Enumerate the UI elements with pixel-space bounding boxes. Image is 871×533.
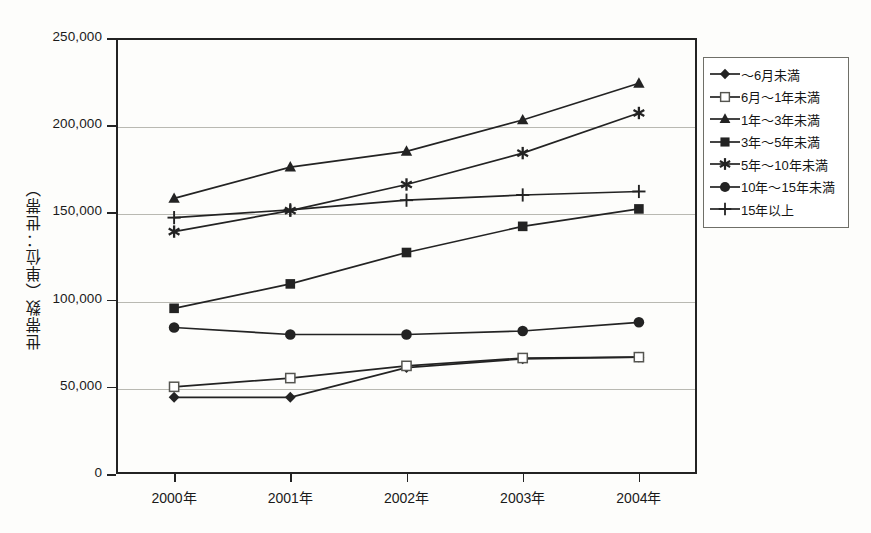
series-line [169, 352, 645, 403]
marker-star-six [634, 107, 645, 119]
legend-label: 6月～1年未満 [741, 87, 820, 106]
y-axis-tick-label: 250,000 [53, 29, 103, 44]
chart-canvas: 世帯数（単位：世帯） 050,000100,000150,000200,0002… [0, 0, 871, 533]
marker-plus [400, 194, 413, 207]
legend-marker [709, 64, 741, 84]
marker-circle-filled [634, 317, 645, 328]
legend-marker [709, 199, 741, 219]
legend-label: 3年～5年未満 [741, 132, 820, 151]
y-axis-tick [107, 125, 116, 127]
marker-plus [719, 203, 732, 216]
marker-square-open [402, 361, 411, 370]
marker-triangle-filled [633, 77, 644, 87]
series-polyline [174, 113, 639, 232]
legend-marker [709, 87, 741, 107]
legend-label: 15年以上 [741, 200, 794, 219]
chart-legend: ～6月未満6月～1年未満1年～3年未満3年～5年未満5年～10年未満10年～15… [703, 57, 849, 228]
marker-square-open [286, 373, 295, 382]
legend-item[interactable]: 3年～5年未満 [709, 131, 842, 154]
x-axis-tick-label: 2004年 [589, 487, 689, 507]
y-axis-tick [107, 474, 116, 476]
y-axis-title-text: 世帯数（単位：世帯） [27, 180, 43, 350]
marker-square-filled [720, 137, 729, 146]
y-axis-tick [107, 300, 116, 302]
series-layer [116, 38, 697, 474]
legend-item[interactable]: 6月～1年未満 [709, 86, 842, 109]
legend-marker [709, 132, 741, 152]
x-axis-tick-label: 2001年 [240, 487, 340, 507]
marker-star-six [517, 147, 528, 159]
legend-item[interactable]: 5年～10年未満 [709, 153, 842, 176]
marker-circle-filled [401, 329, 412, 340]
marker-square-open [170, 382, 179, 391]
legend-label: 10年～15年未満 [741, 177, 835, 196]
legend-marker [709, 154, 741, 174]
y-axis-tick-label: 200,000 [53, 116, 103, 131]
series-line [169, 317, 644, 340]
x-axis-tick [290, 474, 292, 482]
legend-item[interactable]: 10年～15年未満 [709, 176, 842, 199]
y-axis-tick-label: 100,000 [53, 291, 103, 306]
x-axis-tick-label: 2002年 [357, 487, 457, 507]
marker-circle-filled [285, 329, 296, 340]
series-polyline [174, 209, 639, 308]
marker-square-filled [169, 304, 179, 314]
y-axis-tick-label: 50,000 [60, 378, 102, 393]
x-axis-tick [407, 474, 409, 482]
marker-square-filled [286, 279, 296, 289]
marker-circle-filled [517, 326, 528, 337]
legend-label: 5年～10年未満 [741, 155, 828, 174]
legend-label: ～6月未満 [741, 65, 800, 84]
marker-square-filled [518, 222, 528, 232]
marker-square-open [721, 92, 730, 101]
x-axis-tick-label: 2003年 [473, 487, 573, 507]
marker-plus [516, 188, 529, 201]
legend-marker [709, 177, 741, 197]
marker-plus [168, 211, 181, 224]
x-axis-tick [523, 474, 525, 482]
marker-diamond-filled [720, 69, 730, 79]
y-axis-tick [107, 38, 116, 40]
marker-square-filled [634, 204, 644, 214]
x-axis-tick [174, 474, 176, 482]
marker-diamond-filled [285, 392, 296, 403]
y-axis-tick-label: 150,000 [53, 203, 103, 218]
y-axis-tick [107, 212, 116, 214]
marker-plus [632, 185, 645, 198]
y-axis-title: 世帯数（単位：世帯） [22, 180, 48, 354]
marker-square-filled [402, 248, 412, 258]
legend-item[interactable]: 1年～3年未満 [709, 108, 842, 131]
legend-item[interactable]: ～6月未満 [709, 63, 842, 86]
x-axis-tick [639, 474, 641, 482]
y-axis-tick [107, 387, 116, 389]
marker-circle-filled [720, 182, 730, 192]
legend-label: 1年～3年未満 [741, 110, 820, 129]
marker-diamond-filled [169, 392, 180, 403]
x-axis-tick-label: 2000年 [124, 487, 224, 507]
marker-square-open [634, 353, 643, 362]
y-axis-tick-label: 0 [94, 465, 102, 480]
marker-circle-filled [169, 322, 180, 333]
marker-square-open [518, 353, 527, 362]
legend-marker [709, 109, 741, 129]
legend-item[interactable]: 15年以上 [709, 198, 842, 221]
